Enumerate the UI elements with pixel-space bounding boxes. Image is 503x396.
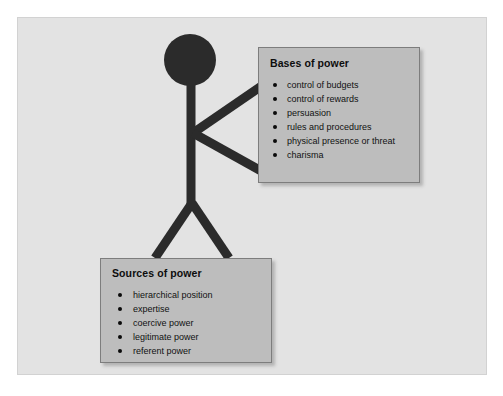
bases-of-power-box: Bases of power control of budgets contro… bbox=[258, 47, 420, 183]
bases-of-power-title: Bases of power bbox=[270, 57, 411, 69]
bullet-icon bbox=[118, 349, 122, 353]
list-item-label: control of budgets bbox=[287, 80, 359, 90]
list-item-label: coercive power bbox=[133, 318, 194, 328]
list-item-label: expertise bbox=[133, 304, 170, 314]
bullet-icon bbox=[273, 97, 277, 101]
list-item-label: control of rewards bbox=[287, 94, 359, 104]
list-item: hierarchical position bbox=[112, 288, 263, 302]
bullet-icon bbox=[118, 293, 122, 297]
list-item-label: legitimate power bbox=[133, 332, 199, 342]
bullet-icon bbox=[118, 335, 122, 339]
sources-of-power-list: hierarchical position expertise coercive… bbox=[112, 288, 263, 358]
bullet-icon bbox=[273, 83, 277, 87]
bullet-icon bbox=[273, 153, 277, 157]
list-item-label: physical presence or threat bbox=[287, 136, 395, 146]
list-item: charisma bbox=[270, 148, 411, 162]
list-item: control of budgets bbox=[270, 78, 411, 92]
diagram-canvas: Bases of power control of budgets contro… bbox=[0, 0, 503, 396]
list-item: rules and procedures bbox=[270, 120, 411, 134]
list-item: control of rewards bbox=[270, 92, 411, 106]
list-item-label: rules and procedures bbox=[287, 122, 372, 132]
list-item-label: persuasion bbox=[287, 108, 331, 118]
bases-of-power-list: control of budgets control of rewards pe… bbox=[270, 78, 411, 162]
bullet-icon bbox=[273, 139, 277, 143]
list-item-label: charisma bbox=[287, 150, 324, 160]
sources-of-power-title: Sources of power bbox=[112, 267, 263, 279]
list-item: persuasion bbox=[270, 106, 411, 120]
bullet-icon bbox=[118, 307, 122, 311]
list-item: physical presence or threat bbox=[270, 134, 411, 148]
sources-of-power-box: Sources of power hierarchical position e… bbox=[100, 258, 272, 363]
list-item-label: referent power bbox=[133, 346, 191, 356]
bullet-icon bbox=[273, 125, 277, 129]
bullet-icon bbox=[273, 111, 277, 115]
list-item: expertise bbox=[112, 302, 263, 316]
list-item: legitimate power bbox=[112, 330, 263, 344]
bullet-icon bbox=[118, 321, 122, 325]
list-item: referent power bbox=[112, 344, 263, 358]
list-item: coercive power bbox=[112, 316, 263, 330]
list-item-label: hierarchical position bbox=[133, 290, 213, 300]
